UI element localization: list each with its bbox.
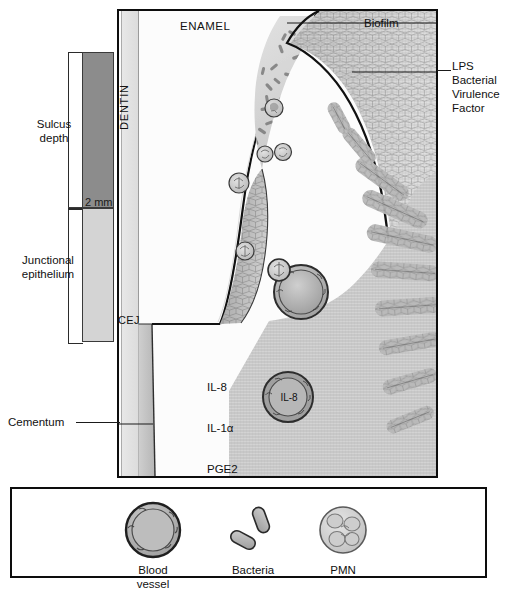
cytokine-il1a: IL-1α: [207, 422, 240, 436]
vessel-il8-label: IL-8: [271, 391, 307, 405]
lps-label: LPS Bacterial Virulence Factor: [452, 59, 500, 115]
cementum-leader-line: [76, 422, 120, 423]
cytokine-list: IL-8 IL-1α PGE2 MMP TNF-α: [207, 354, 240, 478]
junctional-epithelium-label: Junctional epithelium: [6, 253, 90, 281]
sulcus-depth-scale: 2 mm: [0, 0, 120, 480]
figure-root: 2 mm Sulcus depth Junctional epithelium …: [0, 0, 507, 590]
pmn-icon: [311, 500, 375, 560]
legend-caption-bacteria: Bacteria: [208, 564, 298, 578]
legend-item-blood-vessel: Blood vessel: [108, 500, 198, 590]
biofilm-label: Biofilm: [364, 17, 399, 31]
lps-leader-stub: [437, 70, 451, 71]
cementum-label: Cementum: [8, 416, 64, 430]
legend-item-pmn: PMN: [298, 500, 388, 578]
legend-caption-pmn: PMN: [298, 564, 388, 578]
legend-box: Blood vessel Bacteria: [10, 487, 487, 578]
scale-measurement-label: 2 mm: [85, 196, 113, 210]
cytokine-il8: IL-8: [207, 381, 240, 395]
bacteria-icon: [221, 500, 285, 560]
main-diagram-panel: ENAMEL IL-8 IL-1α PGE2 MMP TNF-α IL-8: [117, 9, 438, 478]
cej-label: CEJ: [118, 314, 140, 328]
legend-caption-blood-vessel: Blood vessel: [108, 564, 198, 590]
legend-item-bacteria: Bacteria: [208, 500, 298, 578]
anatomy-illustration: [119, 11, 436, 476]
enamel-label: ENAMEL: [180, 20, 230, 34]
blood-vessel-icon: [121, 500, 185, 560]
dentin-label: DENTIN: [118, 84, 132, 130]
cytokine-pge2: PGE2: [207, 463, 240, 477]
sulcus-depth-label: Sulcus depth: [18, 117, 90, 145]
